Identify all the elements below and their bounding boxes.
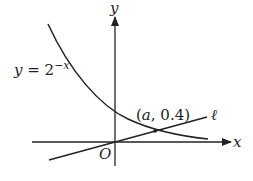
line-l-label: ℓ <box>211 106 217 124</box>
curve-equation-base: = 2 <box>22 61 54 79</box>
curve-equation-exponent: −x <box>54 59 70 72</box>
function-graph-diagram: x y O y = 2−x ℓ (a, 0.4) <box>0 0 253 181</box>
x-axis-label: x <box>233 133 242 151</box>
intersection-point <box>153 129 157 133</box>
intersection-point-label: (a, 0.4) <box>136 106 190 124</box>
y-axis-label: y <box>109 0 119 17</box>
origin-label: O <box>99 145 111 163</box>
curve-equation-label: y = 2−x <box>13 59 70 79</box>
